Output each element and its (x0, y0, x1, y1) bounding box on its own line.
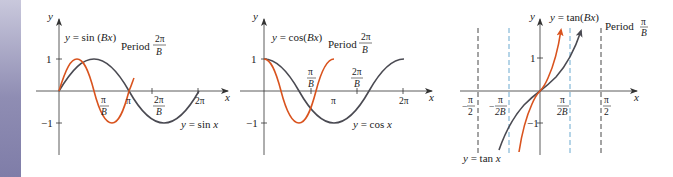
period-word: Period (328, 38, 357, 50)
x-axis-label: x (428, 91, 434, 103)
x-tick-2pi: 2π (399, 96, 409, 106)
y-tick-1: 1 (46, 53, 52, 65)
y-tick-neg1: −1 (527, 117, 539, 129)
x-tick-2pi-over-b-den: B (156, 107, 162, 117)
sin-x-label: y = sin x (180, 118, 218, 130)
period-numerator: π (641, 17, 646, 27)
period-numerator: 2π (361, 32, 371, 42)
x-tick-neg-sign: − (489, 102, 494, 112)
x-tick-pi-over-b-den: B (308, 79, 314, 89)
x-tick-2pi-over-b-num: 2π (154, 95, 164, 105)
y-tick-1: 1 (251, 53, 257, 65)
x-axis-label: x (633, 91, 639, 103)
period-denominator: B (156, 47, 162, 57)
y-axis-label: y (252, 10, 258, 22)
y-tick-neg1: −1 (246, 117, 258, 129)
period-word: Period (121, 40, 150, 52)
cos-x-label: y = cos x (352, 118, 392, 130)
x-tick-neg-pi-over-2b-den: 2B (495, 107, 506, 117)
x-tick-2pi-over-b-den: B (354, 79, 360, 89)
charts-canvas: y x y = sin (Bx) Period 2π B 1 −1 π B π … (0, 0, 673, 177)
x-tick-pi-over-2-num: π (604, 95, 609, 105)
x-tick-pi-over-b-num: π (308, 67, 313, 77)
y-tick-1: 1 (530, 52, 536, 64)
x-tick-pi: π (126, 96, 131, 106)
x-tick-pi-over-2b-num: π (560, 95, 565, 105)
period-numerator: 2π (155, 34, 165, 44)
x-tick-pi-over-b-num: π (101, 95, 106, 105)
cos-chart: y x y = cos(Bx) Period 2π B 1 −1 π B π 2… (240, 10, 434, 155)
x-tick-pi-over-2b-den: 2B (557, 107, 568, 117)
x-tick-pi-over-b-den: B (101, 107, 107, 117)
y-axis-label: y (47, 10, 53, 22)
period-denominator: B (362, 45, 368, 55)
tan-chart: y x y = tan(Bx) Period π B 1 −1 − π 2 − … (460, 10, 648, 164)
x-tick-neg-pi-over-2-den: 2 (468, 107, 473, 117)
y-tick-neg1: −1 (41, 117, 53, 129)
period-denominator: B (641, 28, 647, 38)
x-tick-neg-pi-over-2-num: π (468, 95, 473, 105)
tan-bx-title: y = tan(Bx) (549, 11, 599, 24)
x-tick-neg-sign: − (462, 102, 467, 112)
x-tick-pi: π (331, 96, 336, 106)
x-tick-neg-pi-over-2b-num: π (498, 95, 503, 105)
y-axis-label: y (529, 10, 535, 22)
cos-bx-title: y = cos(Bx) (271, 31, 323, 44)
period-word: Period (605, 20, 634, 32)
x-axis-label: x (224, 91, 230, 103)
x-tick-pi-over-2-den: 2 (604, 107, 609, 117)
x-tick-2pi-over-b-num: 2π (352, 67, 362, 77)
tan-x-label: y = tan x (462, 152, 501, 164)
sin-chart: y x y = sin (Bx) Period 2π B 1 −1 π B π … (36, 10, 230, 155)
x-tick-2pi: 2π (195, 96, 205, 106)
sin-bx-title: y = sin (Bx) (64, 31, 116, 44)
